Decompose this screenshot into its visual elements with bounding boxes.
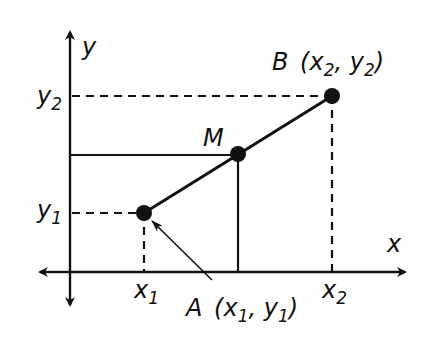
midpoint-projections: [70, 155, 238, 272]
tick-label-y2: y2: [36, 82, 62, 114]
midpoint-diagram: y x y2 y1 x1 x2 B (x2, y2) M A (x1, y1): [0, 0, 423, 344]
tick-label-x1: x1: [133, 276, 159, 308]
label-point-a: A (x1, y1): [184, 294, 298, 326]
tick-label-x2: x2: [321, 276, 347, 308]
point-b: [324, 88, 340, 104]
tick-label-y1: y1: [36, 196, 62, 228]
point-m: [230, 146, 246, 162]
label-point-m: M: [203, 124, 224, 152]
y-axis-label: y: [81, 33, 97, 61]
x-axis-label: x: [386, 230, 402, 258]
point-a: [136, 205, 152, 221]
label-point-b: B (x2, y2): [272, 48, 384, 80]
guide-lines-a: [72, 213, 144, 272]
guide-lines-b: [72, 96, 332, 272]
